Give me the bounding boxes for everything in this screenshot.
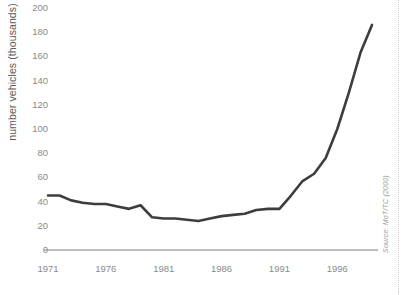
y-tick-label: 0 [14, 245, 48, 255]
data-series-line [48, 25, 372, 221]
page-edge-dotted-rule [398, 0, 399, 295]
x-tick-label: 1996 [312, 263, 362, 274]
y-axis-tick-labels: 020406080100120140160180200 [14, 0, 48, 295]
chart-plot-area [0, 0, 408, 295]
y-tick-label: 120 [14, 100, 48, 110]
x-axis-tick-labels: 197119761981198619911996 [0, 263, 408, 277]
chart-figure: number vehicles (thousands) 020406080100… [0, 0, 408, 295]
y-tick-label: 160 [14, 51, 48, 61]
y-tick-label: 140 [14, 76, 48, 86]
y-tick-label: 180 [14, 27, 48, 37]
source-note: Source: MoT/TC (2000) [382, 159, 394, 269]
x-tick-label: 1986 [197, 263, 247, 274]
x-tick-label: 1981 [139, 263, 189, 274]
y-tick-label: 200 [14, 3, 48, 13]
y-tick-label: 80 [14, 148, 48, 158]
x-tick-label: 1976 [81, 263, 131, 274]
y-tick-label: 40 [14, 197, 48, 207]
y-tick-label: 100 [14, 124, 48, 134]
y-tick-label: 60 [14, 172, 48, 182]
y-tick-label: 20 [14, 221, 48, 231]
x-tick-label: 1971 [23, 263, 73, 274]
x-tick-label: 1991 [254, 263, 304, 274]
